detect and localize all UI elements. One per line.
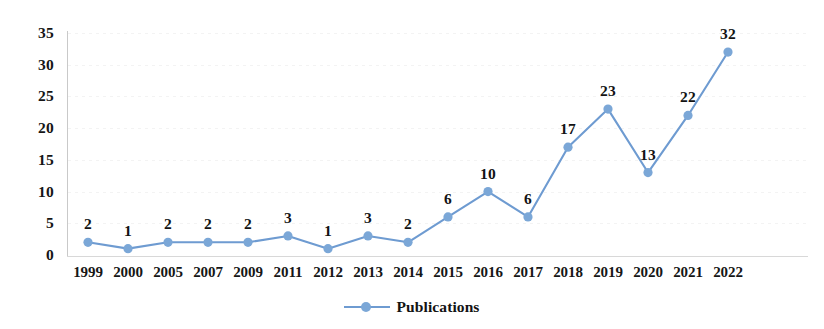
- y-tick-label-0: 0: [14, 246, 54, 264]
- data-point-2022[interactable]: [723, 47, 732, 56]
- data-point-2016[interactable]: [483, 187, 492, 196]
- data-label-2020: 13: [628, 146, 668, 164]
- data-point-2017[interactable]: [523, 212, 532, 221]
- data-point-2005[interactable]: [163, 238, 172, 247]
- data-point-2011[interactable]: [283, 231, 292, 240]
- data-label-2013: 3: [348, 209, 388, 227]
- data-label-2009: 2: [228, 215, 268, 233]
- legend-line-circle-marker-icon: [344, 300, 390, 314]
- y-tick-label-30: 30: [14, 56, 54, 74]
- y-tick-label-5: 5: [14, 214, 54, 232]
- chart-legend: Publications: [0, 298, 824, 316]
- data-point-2013[interactable]: [363, 231, 372, 240]
- data-label-2011: 3: [268, 209, 308, 227]
- data-point-2012[interactable]: [323, 244, 332, 253]
- data-label-2016: 10: [468, 165, 508, 183]
- y-tick-label-35: 35: [14, 24, 54, 42]
- data-point-2007[interactable]: [203, 238, 212, 247]
- data-label-2019: 23: [588, 82, 628, 100]
- data-label-1999: 2: [68, 215, 108, 233]
- data-label-2012: 1: [308, 222, 348, 240]
- y-tick-label-15: 15: [14, 151, 54, 169]
- data-label-2005: 2: [148, 215, 188, 233]
- data-point-2018[interactable]: [563, 143, 572, 152]
- data-point-2015[interactable]: [443, 212, 452, 221]
- data-label-2015: 6: [428, 190, 468, 208]
- data-label-2018: 17: [548, 120, 588, 138]
- x-tick-label-2022: 2022: [705, 264, 751, 281]
- data-label-2000: 1: [108, 222, 148, 240]
- data-point-2021[interactable]: [683, 111, 692, 120]
- y-tick-label-25: 25: [14, 87, 54, 105]
- legend-circle-marker: [361, 302, 371, 312]
- data-label-2021: 22: [668, 88, 708, 106]
- x-axis-line: [67, 256, 808, 257]
- y-tick-label-10: 10: [14, 183, 54, 201]
- data-label-2022: 32: [708, 25, 748, 43]
- data-point-2014[interactable]: [403, 238, 412, 247]
- legend-item-publications[interactable]: Publications: [344, 298, 479, 316]
- data-label-2007: 2: [188, 215, 228, 233]
- data-label-2014: 2: [388, 215, 428, 233]
- data-point-2000[interactable]: [123, 244, 132, 253]
- data-point-2019[interactable]: [603, 105, 612, 114]
- data-label-2017: 6: [508, 190, 548, 208]
- y-tick-label-20: 20: [14, 119, 54, 137]
- data-point-2020[interactable]: [643, 168, 652, 177]
- data-point-2009[interactable]: [243, 238, 252, 247]
- data-point-1999[interactable]: [83, 238, 92, 247]
- legend-label: Publications: [396, 298, 479, 316]
- publications-line-chart: 05101520253035 1999200020052007200920112…: [0, 0, 824, 329]
